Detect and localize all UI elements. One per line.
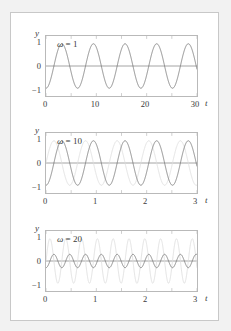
y-tick-1: 1 xyxy=(19,135,41,144)
x-tick-2: 2 xyxy=(136,197,154,206)
omega-annotation: ω = 1 xyxy=(57,40,77,49)
x-tick-0: 0 xyxy=(36,197,54,206)
omega-annotation: ω = 10 xyxy=(57,137,82,146)
omega-equals: = xyxy=(63,136,73,146)
x-axis-label: t xyxy=(205,196,208,205)
x-tick-0: 0 xyxy=(36,100,54,109)
x-axis-label: t xyxy=(205,294,208,303)
figure-card: y 1 0 −1 0 10 20 30 t ω = 1 y 1 0 −1 0 1… xyxy=(10,12,219,321)
x-tick-2: 2 xyxy=(136,295,154,304)
omega-value: 1 xyxy=(73,39,78,49)
x-axis-label: t xyxy=(205,99,208,108)
omega-equals: = xyxy=(63,39,73,49)
y-tick-minus1: −1 xyxy=(19,183,41,192)
omega-annotation: ω = 20 xyxy=(57,235,82,244)
x-tick-3: 30 xyxy=(186,100,204,109)
y-tick-0: 0 xyxy=(19,62,41,71)
y-tick-minus1: −1 xyxy=(19,281,41,290)
x-tick-1: 1 xyxy=(86,197,104,206)
x-tick-3: 3 xyxy=(186,197,204,206)
x-tick-1: 1 xyxy=(86,295,104,304)
y-tick-0: 0 xyxy=(19,257,41,266)
x-tick-1: 10 xyxy=(86,100,104,109)
omega-equals: = xyxy=(63,234,73,244)
y-tick-0: 0 xyxy=(19,159,41,168)
omega-value: 20 xyxy=(73,234,82,244)
y-tick-minus1: −1 xyxy=(19,86,41,95)
omega-value: 10 xyxy=(73,136,82,146)
x-tick-3: 3 xyxy=(186,295,204,304)
y-tick-1: 1 xyxy=(19,38,41,47)
x-tick-0: 0 xyxy=(36,295,54,304)
plot-panel-omega-1: y 1 0 −1 0 10 20 30 t ω = 1 xyxy=(11,21,220,118)
y-tick-1: 1 xyxy=(19,233,41,242)
plot-panel-omega-20: y 1 0 −1 0 1 2 3 t ω = 20 xyxy=(11,216,220,314)
x-tick-2: 20 xyxy=(136,100,154,109)
plot-panel-omega-10: y 1 0 −1 0 1 2 3 t ω = 10 xyxy=(11,118,220,216)
